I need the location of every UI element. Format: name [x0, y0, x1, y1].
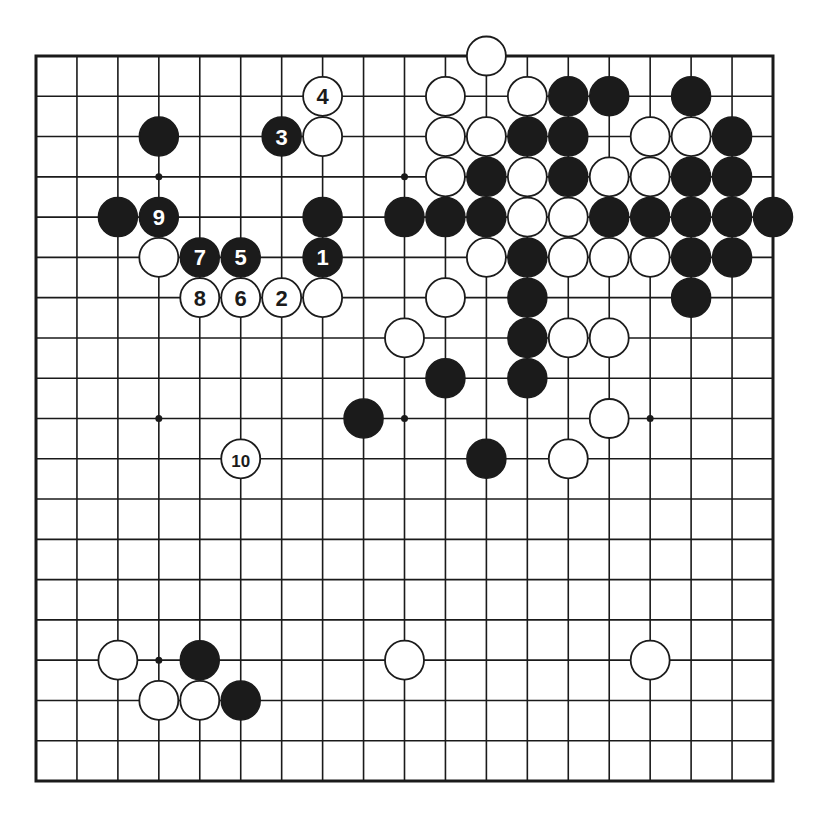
black-stone [508, 117, 547, 156]
black-stone [303, 198, 342, 237]
go-board: 43975186210 [0, 0, 821, 821]
stone-disc [508, 157, 547, 196]
stone-disc [426, 198, 465, 237]
white-stone [549, 238, 588, 277]
stone-disc [303, 117, 342, 156]
black-stone [672, 77, 711, 116]
stone-disc [426, 359, 465, 398]
white-stone [303, 278, 342, 317]
black-stone [672, 278, 711, 317]
black-stone [754, 198, 793, 237]
white-stone-move-8: 8 [180, 278, 219, 317]
stone-disc [467, 238, 506, 277]
white-stone [508, 157, 547, 196]
move-number-label: 3 [276, 125, 288, 150]
white-stone [98, 641, 137, 680]
stone-disc [98, 198, 137, 237]
white-stone [549, 439, 588, 478]
move-number-label: 5 [235, 245, 247, 270]
white-stone [549, 198, 588, 237]
star-point [401, 173, 408, 180]
stone-disc [426, 77, 465, 116]
black-stone [385, 198, 424, 237]
stone-disc [508, 77, 547, 116]
black-stone [590, 77, 629, 116]
white-stone-move-10: 10 [221, 439, 260, 478]
star-point [647, 415, 654, 422]
move-number-label: 6 [235, 286, 247, 311]
stone-disc [426, 117, 465, 156]
stone-disc [139, 117, 178, 156]
stone-disc [631, 157, 670, 196]
black-stone [713, 117, 752, 156]
stone-disc [549, 318, 588, 357]
stone-disc [467, 439, 506, 478]
star-point [155, 415, 162, 422]
white-stone [508, 198, 547, 237]
star-point [401, 415, 408, 422]
stone-disc [631, 238, 670, 277]
stone-disc [385, 641, 424, 680]
white-stone [303, 117, 342, 156]
move-number-label: 2 [276, 286, 288, 311]
black-stone [98, 198, 137, 237]
stone-disc [98, 641, 137, 680]
stone-disc [180, 681, 219, 720]
black-stone [549, 157, 588, 196]
stone-disc [631, 641, 670, 680]
white-stone [180, 681, 219, 720]
stone-disc [508, 198, 547, 237]
stone-disc [549, 117, 588, 156]
black-stone-move-7: 7 [180, 238, 219, 277]
stone-disc [303, 198, 342, 237]
white-stone [549, 318, 588, 357]
stone-disc [508, 117, 547, 156]
stone-disc [549, 439, 588, 478]
black-stone [549, 117, 588, 156]
white-stone [467, 238, 506, 277]
stone-disc [467, 37, 506, 76]
white-stone [385, 641, 424, 680]
white-stone [672, 117, 711, 156]
stone-disc [590, 157, 629, 196]
stone-disc [303, 278, 342, 317]
stone-disc [713, 117, 752, 156]
stone-disc [590, 318, 629, 357]
black-stone [467, 157, 506, 196]
stone-disc [590, 77, 629, 116]
white-stone [590, 157, 629, 196]
stone-disc [672, 117, 711, 156]
black-stone [508, 359, 547, 398]
white-stone [139, 681, 178, 720]
star-point [155, 173, 162, 180]
stone-disc [631, 198, 670, 237]
white-stone [426, 157, 465, 196]
white-stone [631, 641, 670, 680]
stone-disc [508, 278, 547, 317]
white-stone [631, 117, 670, 156]
black-stone [713, 157, 752, 196]
black-stone [549, 77, 588, 116]
white-stone [426, 117, 465, 156]
black-stone [221, 681, 260, 720]
stone-disc [467, 117, 506, 156]
white-stone [385, 318, 424, 357]
black-stone [180, 641, 219, 680]
black-stone [590, 198, 629, 237]
black-stone [672, 198, 711, 237]
move-number-label: 8 [194, 286, 206, 311]
stone-disc [549, 198, 588, 237]
stone-disc [549, 77, 588, 116]
black-stone [672, 238, 711, 277]
black-stone-move-1: 1 [303, 238, 342, 277]
white-stone [631, 157, 670, 196]
black-stone [672, 157, 711, 196]
stone-disc [672, 198, 711, 237]
black-stone-move-9: 9 [139, 198, 178, 237]
stone-disc [139, 681, 178, 720]
stone-disc [426, 278, 465, 317]
white-stone-move-4: 4 [303, 77, 342, 116]
white-stone [590, 238, 629, 277]
stone-disc [139, 238, 178, 277]
stone-disc [221, 681, 260, 720]
